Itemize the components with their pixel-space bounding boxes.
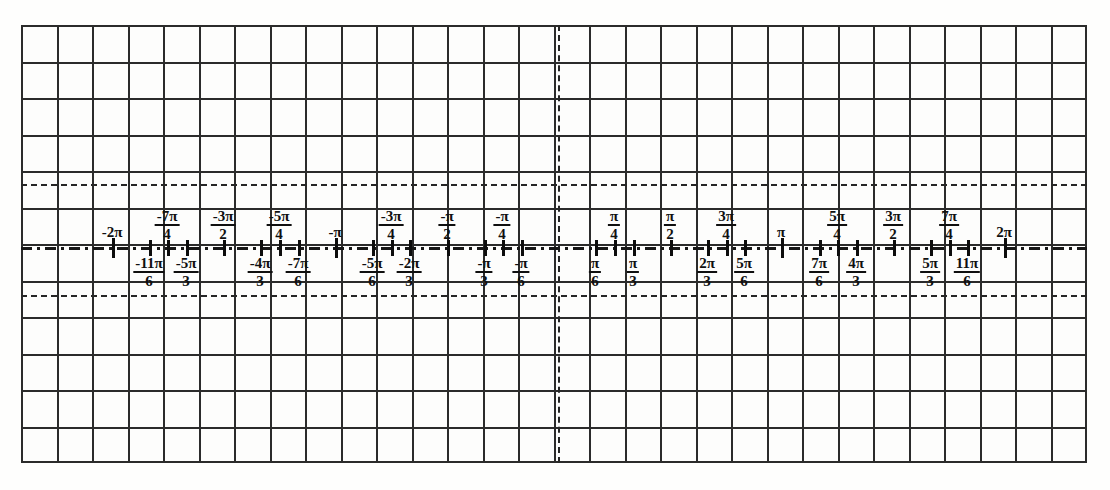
tick-pos-pi-3 xyxy=(633,240,636,256)
tick-label-neg-pi-6: -π6 xyxy=(512,256,529,289)
tick-pos-11pi-6 xyxy=(967,240,970,256)
label-denominator: 3 xyxy=(475,273,492,289)
grid-line-horizontal xyxy=(21,244,1087,246)
tick-neg-pi-6 xyxy=(521,240,524,256)
tick-label-pos-5pi-4: 5π4 xyxy=(827,209,847,242)
tick-label-pos-2pi-3: 2π3 xyxy=(697,256,717,289)
tick-label-pos-pi: π xyxy=(775,225,787,240)
tick-neg-pi-4 xyxy=(502,240,505,256)
label-numerator: π xyxy=(664,209,676,226)
label-numerator: π xyxy=(608,209,620,226)
label-denominator: 4 xyxy=(608,226,620,242)
tick-neg-2pi-3 xyxy=(409,240,412,256)
tick-pos-5pi-3 xyxy=(930,240,933,256)
tick-neg-5pi-3 xyxy=(186,240,189,256)
label-denominator: 2 xyxy=(664,226,676,242)
label-numerator: 2π xyxy=(994,225,1014,240)
tick-pos-7pi-6 xyxy=(819,240,822,256)
label-denominator: 3 xyxy=(920,273,940,289)
number-line-axis xyxy=(21,247,1087,250)
tick-neg-pi-2 xyxy=(447,240,450,256)
tick-label-pos-5pi-6: 5π6 xyxy=(734,256,754,289)
grid-line-horizontal xyxy=(21,62,1087,64)
tick-neg-4pi-3 xyxy=(260,240,263,256)
tick-label-pos-3pi-2: 3π2 xyxy=(883,209,903,242)
label-numerator: -4π xyxy=(248,256,273,273)
label-numerator: -2π xyxy=(100,225,125,240)
label-numerator: -π xyxy=(475,256,492,273)
tick-label-neg-5pi-4: -5π4 xyxy=(267,209,292,242)
label-numerator: 7π xyxy=(939,209,959,226)
grid-line-horizontal xyxy=(21,171,1087,173)
label-numerator: -π xyxy=(512,256,529,273)
label-denominator: 6 xyxy=(286,273,311,289)
label-denominator: 4 xyxy=(716,226,736,242)
tick-pos-pi-4 xyxy=(614,240,617,256)
tick-label-neg-2pi: -2π xyxy=(100,225,125,240)
tick-label-pos-pi-6: π6 xyxy=(589,256,601,289)
grid-line-horizontal xyxy=(21,354,1087,356)
tick-pos-2pi xyxy=(1004,238,1007,258)
tick-pos-pi xyxy=(781,238,784,258)
label-denominator: 3 xyxy=(846,273,866,289)
tick-label-pos-2pi: 2π xyxy=(994,225,1014,240)
label-denominator: 3 xyxy=(697,273,717,289)
tick-label-neg-4pi-3: -4π3 xyxy=(248,256,273,289)
label-numerator: 5π xyxy=(920,256,940,273)
tick-label-neg-5pi-3: -5π3 xyxy=(174,256,199,289)
grid-line-horizontal xyxy=(21,317,1087,319)
label-denominator: 4 xyxy=(267,226,292,242)
label-denominator: 6 xyxy=(133,273,164,289)
tick-neg-pi xyxy=(335,238,338,258)
label-numerator: -7π xyxy=(155,209,180,226)
label-numerator: -5π xyxy=(174,256,199,273)
grid-line-horizontal xyxy=(21,461,1087,463)
vertical-axis-line xyxy=(558,25,560,463)
tick-neg-5pi-6 xyxy=(372,240,375,256)
tick-label-neg-3pi-4: -3π4 xyxy=(379,209,404,242)
tick-label-pos-pi-2: π2 xyxy=(664,209,676,242)
label-denominator: 6 xyxy=(360,273,385,289)
grid-line-horizontal xyxy=(21,390,1087,392)
tick-label-neg-pi: -π xyxy=(326,225,343,240)
label-denominator: 4 xyxy=(493,226,510,242)
label-denominator: 6 xyxy=(954,273,980,289)
label-denominator: 4 xyxy=(155,226,180,242)
grid-line-horizontal xyxy=(21,427,1087,429)
label-numerator: -3π xyxy=(379,209,404,226)
label-denominator: 4 xyxy=(379,226,404,242)
label-numerator: π xyxy=(627,256,639,273)
label-denominator: 2 xyxy=(211,226,236,242)
grid-line-horizontal xyxy=(21,25,1087,27)
label-numerator: 5π xyxy=(734,256,754,273)
label-numerator: π xyxy=(589,256,601,273)
tick-label-pos-7pi-6: 7π6 xyxy=(809,256,829,289)
label-denominator: 3 xyxy=(397,273,422,289)
label-denominator: 6 xyxy=(512,273,529,289)
upper-dashed-guide xyxy=(21,184,1087,186)
tick-label-neg-pi-4: -π4 xyxy=(493,209,510,242)
tick-neg-2pi xyxy=(112,238,115,258)
worksheet-canvas: -2π-7π4-3π2-5π4-π-3π4-π2-π4π4π23π4π5π43π… xyxy=(0,0,1110,490)
label-numerator: -2π xyxy=(397,256,422,273)
tick-label-pos-11pi-6: 11π6 xyxy=(954,256,980,289)
grid-line-horizontal xyxy=(21,208,1087,210)
tick-pos-5pi-6 xyxy=(744,240,747,256)
tick-neg-11pi-6 xyxy=(149,240,152,256)
label-denominator: 3 xyxy=(248,273,273,289)
tick-label-neg-pi-2: -π2 xyxy=(438,209,455,242)
label-denominator: 4 xyxy=(827,226,847,242)
label-numerator: -11π xyxy=(133,256,164,273)
tick-label-pos-3pi-4: 3π4 xyxy=(716,209,736,242)
tick-label-neg-5pi-6: -5π6 xyxy=(360,256,385,289)
tick-label-neg-2pi-3: -2π3 xyxy=(397,256,422,289)
label-numerator: -5π xyxy=(360,256,385,273)
grid-line-horizontal xyxy=(21,135,1087,137)
tick-pos-3pi-2 xyxy=(893,240,896,256)
label-numerator: 3π xyxy=(883,209,903,226)
tick-neg-3pi-4 xyxy=(391,240,394,256)
label-denominator: 3 xyxy=(627,273,639,289)
tick-pos-2pi-3 xyxy=(707,240,710,256)
tick-label-neg-7pi-6: -7π6 xyxy=(286,256,311,289)
label-denominator: 6 xyxy=(809,273,829,289)
